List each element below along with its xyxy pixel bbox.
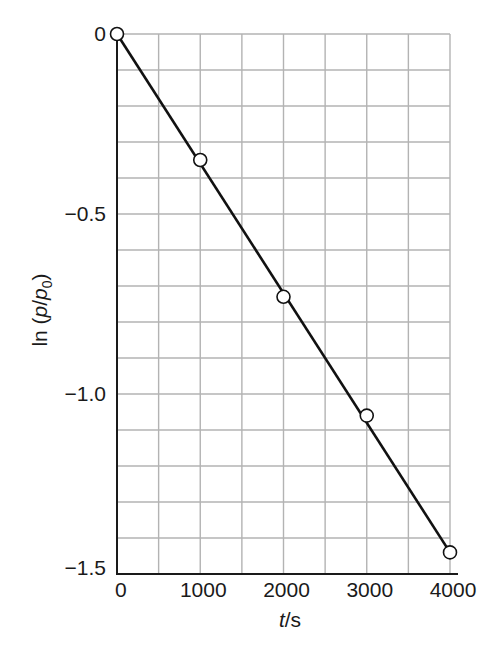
data-point-marker (194, 154, 207, 167)
y-title-p0: p (28, 288, 51, 301)
x-axis-title: t/s (279, 608, 301, 631)
chart-canvas: 01000200030004000 0−0.5−1.0−1.5 t/s ln (… (0, 0, 496, 657)
x-axis-title-unit: /s (285, 608, 301, 631)
data-point-marker (444, 546, 457, 559)
data-point-marker (277, 290, 290, 303)
x-tick-label: 2000 (263, 578, 310, 601)
y-tick-label: −1.5 (65, 556, 106, 579)
data-point-marker (111, 28, 124, 41)
y-tick-label: 0 (94, 22, 106, 45)
x-tick-label: 0 (115, 578, 127, 601)
axes (116, 34, 458, 575)
y-title-subscript: 0 (39, 280, 55, 288)
y-tick-label: −1.0 (65, 382, 106, 405)
data-point-marker (360, 409, 373, 422)
x-tick-labels: 01000200030004000 (115, 578, 476, 601)
y-title-prefix: ln ( (28, 317, 51, 346)
x-tick-label: 4000 (430, 578, 477, 601)
y-tick-label: −0.5 (65, 202, 106, 225)
x-tick-label: 1000 (180, 578, 227, 601)
y-tick-labels: 0−0.5−1.0−1.5 (65, 22, 106, 579)
y-title-p: p (28, 306, 51, 319)
y-title-suffix: ) (28, 273, 51, 280)
x-tick-label: 3000 (346, 578, 393, 601)
y-axis-title: ln (p/p0) (28, 273, 55, 346)
